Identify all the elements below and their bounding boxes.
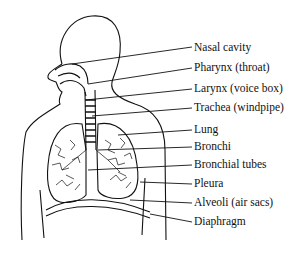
leader-lines — [72, 47, 192, 222]
lung-texture — [52, 138, 132, 190]
label-alveoli: Alveoli (air sacs) — [194, 196, 273, 209]
label-trachea: Trachea (windpipe) — [194, 101, 284, 114]
left-lung — [48, 123, 87, 202]
head-outline — [60, 16, 166, 240]
label-bronchial-tubes: Bronchial tubes — [194, 158, 267, 171]
label-pharynx: Pharynx (throat) — [194, 61, 270, 74]
right-lung — [97, 123, 138, 198]
label-nasal-cavity: Nasal cavity — [194, 41, 251, 54]
trachea-rings — [85, 100, 96, 142]
label-diaphragm: Diaphragm — [194, 215, 246, 228]
label-larynx: Larynx (voice box) — [194, 82, 283, 95]
label-pleura: Pleura — [194, 177, 223, 190]
label-bronchi: Bronchi — [194, 140, 231, 153]
respiratory-illustration — [0, 0, 304, 255]
label-lung: Lung — [194, 123, 218, 136]
